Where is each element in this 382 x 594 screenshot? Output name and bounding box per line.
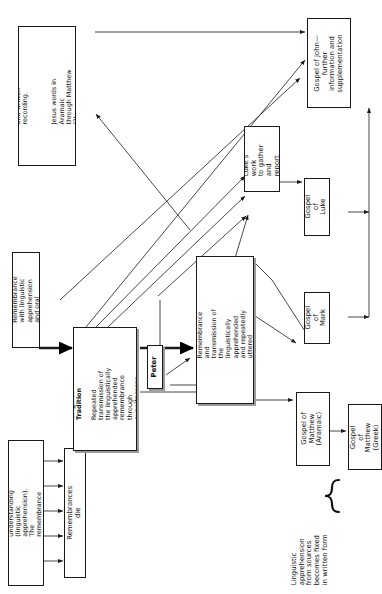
node-peter[interactable]: Peter: [147, 345, 163, 389]
node-lukes-work[interactable]: Luke's work to gather and report: [244, 126, 280, 192]
brace-caption: Linguistic apprehension from sources bec…: [288, 500, 332, 590]
node-gospel-mark-label: Gospel of Mark: [305, 306, 328, 330]
node-gospel-matthew-greek[interactable]: Gospel of Matthew (Greek): [348, 404, 382, 470]
node-gospel-mark[interactable]: Gospel of Mark: [304, 292, 330, 344]
node-peter-label: Peter: [151, 356, 159, 377]
node-gospel-matthew-aramaic[interactable]: Gospel of Matthew (Aramaic): [296, 392, 330, 466]
node-gospel-john[interactable]: Gospel of John— further information and …: [307, 18, 351, 108]
node-gospel-matthew-greek-label: Gospel of Matthew (Greek): [350, 421, 381, 453]
node-remembrance3-label: 3. Remembrance with linguistic apprehens…: [18, 68, 29, 124]
node-original-tradition-label: Repeated transmission of the linguistica…: [91, 358, 137, 420]
arrow-secondary-to-mark: [250, 258, 310, 339]
node-remembrances-die-label: Remembrances die: [67, 486, 82, 540]
node-secondary-tradition-label: Remembrance and transmission of the ling…: [196, 302, 254, 358]
node-gospel-john-label: Gospel of John— further information and …: [314, 34, 345, 92]
node-remembrance1-label: 1. Remembrance with little or no underst…: [8, 489, 44, 537]
node-remembrance3-label2: Jesus words in Aramaic through Matthew (…: [51, 68, 76, 124]
arrow-to-box3: [96, 114, 190, 230]
node-lukes-work-label: Luke's work to gather and report: [244, 142, 280, 176]
node-remembrance2[interactable]: 2. Remembrance with linguistic apprehens…: [12, 252, 40, 348]
node-remembrance2-label: 2. Remembrance with linguistic apprehens…: [12, 277, 40, 324]
arrows-box1-to-die: [44, 461, 63, 561]
node-gospel-matthew-aramaic-label: Gospel of Matthew (Aramaic): [301, 412, 324, 446]
node-remembrances-die[interactable]: Remembrances die: [64, 448, 86, 578]
node-original-tradition-title: Original Tradition: [73, 358, 83, 420]
node-original-tradition[interactable]: Original Tradition Repeated transmission…: [73, 327, 137, 451]
node-remembrance1[interactable]: 1. Remembrance with little or no underst…: [8, 440, 44, 586]
node-gospel-luke-label: Gospel of Luke: [305, 195, 328, 219]
brace-caption-text: Linguistic apprehension from sources bec…: [291, 497, 330, 585]
node-secondary-tradition[interactable]: Secondary Tradition Remembrance and tran…: [196, 256, 254, 404]
node-remembrance3[interactable]: 3. Remembrance with linguistic apprehens…: [18, 26, 76, 166]
arrow-peter-to-secondary: [166, 358, 190, 375]
node-gospel-luke[interactable]: Gospel of Luke: [304, 178, 330, 236]
